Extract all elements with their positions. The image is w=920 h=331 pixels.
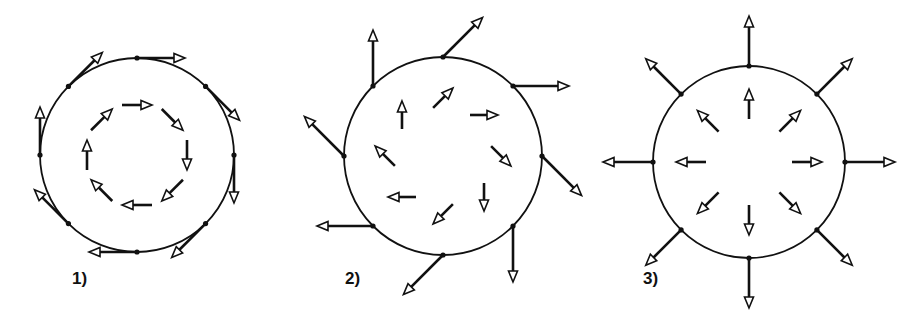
outer-vector-arrow bbox=[845, 158, 895, 167]
outer-vector-arrow bbox=[745, 16, 754, 66]
inner-vector-arrow bbox=[183, 140, 192, 170]
inner-vector-arrow bbox=[745, 89, 754, 119]
hollow-arrowhead-icon bbox=[397, 101, 406, 112]
panel-1 bbox=[34, 52, 239, 257]
hollow-arrowhead-icon bbox=[676, 158, 687, 167]
hollow-arrowhead-icon bbox=[487, 110, 498, 119]
inner-vector-arrow bbox=[491, 146, 511, 166]
panel-label-1: 1) bbox=[72, 269, 87, 289]
hollow-arrowhead-icon bbox=[480, 200, 489, 211]
outer-vector-arrow bbox=[745, 258, 754, 308]
outer-vector-arrow bbox=[68, 52, 102, 86]
hollow-arrowhead-icon bbox=[884, 158, 895, 167]
hollow-arrowhead-icon bbox=[83, 140, 92, 151]
inner-vector-arrow bbox=[470, 110, 498, 119]
outer-vector-arrow bbox=[206, 86, 240, 120]
hollow-arrowhead-icon bbox=[509, 271, 518, 282]
inner-vector-arrow bbox=[480, 183, 489, 211]
outer-vector-arrow bbox=[513, 81, 569, 90]
hollow-arrowhead-icon bbox=[141, 101, 152, 110]
hollow-arrowhead-icon bbox=[603, 158, 614, 167]
panel-label-3: 3) bbox=[643, 269, 658, 289]
inner-vector-arrow bbox=[697, 192, 718, 213]
outer-vector-arrow bbox=[172, 224, 206, 258]
outer-vector-arrow bbox=[304, 116, 344, 156]
hollow-arrowhead-icon bbox=[745, 224, 754, 235]
outer-vector-arrow bbox=[34, 190, 68, 224]
inner-vector-arrow bbox=[676, 158, 706, 167]
hollow-arrowhead-icon bbox=[174, 54, 185, 63]
hollow-arrowhead-icon bbox=[368, 30, 377, 41]
outer-vector-arrow bbox=[403, 255, 443, 295]
hollow-arrowhead-icon bbox=[745, 16, 754, 27]
inner-vector-arrow bbox=[397, 101, 406, 129]
hollow-arrowhead-icon bbox=[745, 89, 754, 100]
hollow-arrowhead-icon bbox=[122, 201, 133, 210]
inner-vector-arrow bbox=[83, 140, 92, 170]
hollow-arrowhead-icon bbox=[183, 159, 192, 170]
outer-vector-arrow bbox=[509, 226, 518, 282]
hollow-arrowhead-icon bbox=[558, 81, 569, 90]
panel-label-2: 2) bbox=[345, 269, 360, 289]
panel-3 bbox=[603, 16, 895, 308]
inner-vector-arrow bbox=[433, 88, 453, 108]
outer-vector-arrow bbox=[603, 158, 653, 167]
inner-vector-arrow bbox=[388, 193, 416, 202]
hollow-arrowhead-icon bbox=[36, 107, 45, 118]
vector-field-diagram bbox=[0, 0, 920, 331]
inner-vector-arrow bbox=[792, 158, 822, 167]
hollow-arrowhead-icon bbox=[230, 192, 239, 203]
outer-vector-arrow bbox=[443, 17, 483, 57]
hollow-arrowhead-icon bbox=[745, 297, 754, 308]
inner-vector-arrow bbox=[779, 110, 800, 131]
outer-vector-arrow bbox=[542, 156, 582, 196]
outer-vector-arrow bbox=[368, 30, 377, 86]
inner-vector-arrow bbox=[697, 110, 718, 131]
inner-vector-arrow bbox=[91, 180, 112, 201]
outer-vector-arrow bbox=[646, 59, 681, 94]
outer-vector-arrow bbox=[646, 230, 681, 265]
hollow-arrowhead-icon bbox=[317, 222, 328, 231]
inner-vector-arrow bbox=[91, 109, 112, 130]
inner-vector-arrow bbox=[779, 192, 800, 213]
inner-vector-arrow bbox=[375, 146, 395, 166]
inner-vector-arrow bbox=[122, 101, 152, 110]
inner-vector-arrow bbox=[162, 180, 183, 201]
inner-vector-arrow bbox=[745, 205, 754, 235]
hollow-arrowhead-icon bbox=[811, 158, 822, 167]
inner-vector-arrow bbox=[162, 109, 183, 130]
inner-vector-arrow bbox=[433, 204, 453, 224]
inner-vector-arrow bbox=[122, 201, 152, 210]
hollow-arrowhead-icon bbox=[89, 248, 100, 257]
panel-2 bbox=[304, 17, 581, 294]
outer-vector-arrow bbox=[317, 222, 373, 231]
outer-vector-arrow bbox=[817, 59, 852, 94]
outer-vector-arrow bbox=[817, 230, 852, 265]
hollow-arrowhead-icon bbox=[388, 193, 399, 202]
